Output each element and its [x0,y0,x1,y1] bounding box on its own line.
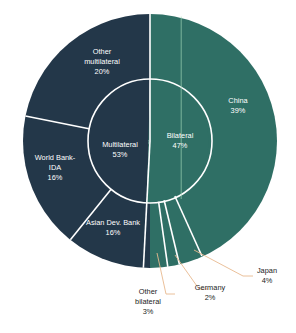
svg-text:bilateral: bilateral [135,297,161,306]
svg-text:World Bank-: World Bank- [35,153,76,162]
nested-pie-chart: Other multilateral 20% World Bank- IDA 1… [0,0,296,333]
svg-text:multilateral: multilateral [84,57,120,66]
svg-text:53%: 53% [113,150,128,159]
svg-text:39%: 39% [231,106,246,115]
svg-text:Other: Other [93,47,112,56]
svg-text:IDA: IDA [49,163,61,172]
svg-text:3%: 3% [143,307,154,316]
svg-text:Japan: Japan [257,266,277,275]
svg-text:Asian Dev. Bank: Asian Dev. Bank [86,218,140,227]
pie-chart-svg: Other multilateral 20% World Bank- IDA 1… [0,0,296,333]
svg-text:Bilateral: Bilateral [167,131,194,140]
svg-text:16%: 16% [106,228,121,237]
svg-text:Other: Other [139,287,158,296]
svg-text:China: China [228,96,248,105]
svg-text:4%: 4% [262,276,273,285]
svg-text:16%: 16% [48,173,63,182]
svg-text:Multilateral: Multilateral [102,140,138,149]
svg-text:2%: 2% [205,293,216,302]
label-japan: Japan 4% [257,266,277,285]
label-other-bilateral: Other bilateral 3% [135,287,161,316]
svg-text:47%: 47% [173,141,188,150]
svg-text:20%: 20% [95,67,110,76]
svg-text:Germany: Germany [195,283,226,292]
label-germany: Germany 2% [195,283,226,302]
